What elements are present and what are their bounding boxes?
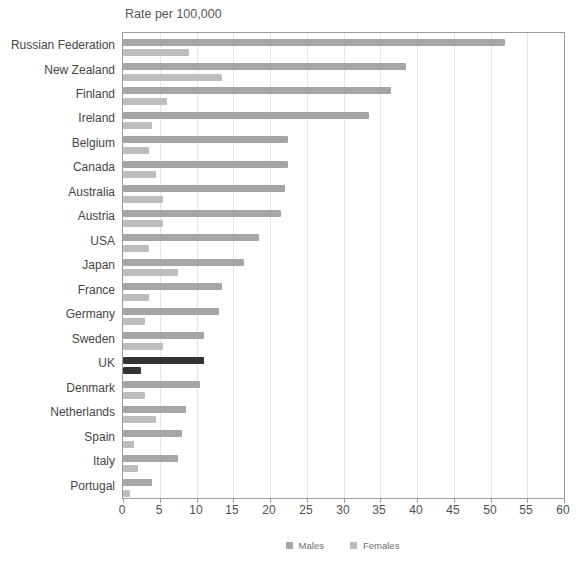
bar-females	[123, 392, 145, 399]
bar-males	[123, 63, 406, 70]
bar-females	[123, 98, 167, 105]
country-label: Austria	[0, 210, 115, 223]
bar-males	[123, 381, 200, 388]
bar-females	[123, 220, 163, 227]
legend-label: Males	[299, 540, 324, 551]
legend-label: Females	[363, 540, 399, 551]
x-tick-label: 50	[475, 503, 505, 517]
gridline	[307, 33, 308, 498]
country-label: Canada	[0, 161, 115, 174]
bar-males	[123, 430, 182, 437]
country-label: Russian Federation	[0, 39, 115, 52]
x-tick-label: 55	[511, 503, 541, 517]
x-tick-label: 15	[217, 503, 247, 517]
bar-females	[123, 441, 134, 448]
x-tick-label: 60	[548, 503, 578, 517]
x-tick-label: 25	[291, 503, 321, 517]
bar-males	[123, 308, 219, 315]
country-label: UK	[0, 357, 115, 370]
x-tick-label: 20	[254, 503, 284, 517]
plot-area	[122, 32, 565, 499]
bar-females	[123, 147, 149, 154]
y-axis-labels: Russian FederationNew ZealandFinlandIrel…	[0, 32, 115, 497]
bar-males	[123, 283, 222, 290]
x-tick-label: 30	[328, 503, 358, 517]
country-label: Finland	[0, 88, 115, 101]
x-tick-label: 0	[107, 503, 137, 517]
legend-swatch-males	[286, 542, 293, 549]
gridline	[454, 33, 455, 498]
legend-item-females: Females	[350, 540, 399, 551]
legend-swatch-females	[350, 542, 357, 549]
gridline	[344, 33, 345, 498]
country-label: USA	[0, 235, 115, 248]
bar-females	[123, 343, 163, 350]
bar-females	[123, 196, 163, 203]
bar-females	[123, 416, 156, 423]
country-label: Japan	[0, 259, 115, 272]
bar-females	[123, 269, 178, 276]
bar-females	[123, 74, 222, 81]
gridline	[491, 33, 492, 498]
legend: MalesFemales	[122, 540, 563, 551]
bar-males	[123, 136, 288, 143]
bar-females	[123, 171, 156, 178]
bar-females	[123, 490, 130, 497]
bar-females	[123, 367, 141, 374]
gridline	[380, 33, 381, 498]
bar-males	[123, 161, 288, 168]
country-label: Germany	[0, 308, 115, 321]
bar-males	[123, 185, 285, 192]
country-label: Netherlands	[0, 406, 115, 419]
bar-males	[123, 406, 186, 413]
bar-males	[123, 259, 244, 266]
country-label: Belgium	[0, 137, 115, 150]
x-axis-labels: 051015202530354045505560	[122, 503, 563, 517]
x-tick-label: 35	[364, 503, 394, 517]
country-label: Australia	[0, 186, 115, 199]
country-label: France	[0, 284, 115, 297]
country-label: Italy	[0, 455, 115, 468]
chart-title: Rate per 100,000	[125, 7, 222, 21]
country-label: New Zealand	[0, 64, 115, 77]
gridline	[527, 33, 528, 498]
bar-males	[123, 332, 204, 339]
bar-males	[123, 39, 505, 46]
bar-males	[123, 455, 178, 462]
bar-males	[123, 87, 391, 94]
country-label: Sweden	[0, 333, 115, 346]
country-label: Portugal	[0, 480, 115, 493]
bar-males	[123, 210, 281, 217]
x-tick-label: 40	[401, 503, 431, 517]
bar-females	[123, 294, 149, 301]
bar-females	[123, 122, 152, 129]
bar-chart: Rate per 100,000 Russian FederationNew Z…	[0, 0, 581, 563]
gridline	[270, 33, 271, 498]
gridline	[417, 33, 418, 498]
bar-females	[123, 49, 189, 56]
country-label: Denmark	[0, 382, 115, 395]
x-tick-label: 45	[438, 503, 468, 517]
bar-females	[123, 465, 138, 472]
bar-females	[123, 245, 149, 252]
country-label: Ireland	[0, 112, 115, 125]
country-label: Spain	[0, 431, 115, 444]
x-tick-label: 5	[144, 503, 174, 517]
x-tick-label: 10	[181, 503, 211, 517]
bar-males	[123, 112, 369, 119]
bar-males	[123, 479, 152, 486]
bar-males	[123, 357, 204, 364]
bar-females	[123, 318, 145, 325]
bar-males	[123, 234, 259, 241]
legend-item-males: Males	[286, 540, 324, 551]
